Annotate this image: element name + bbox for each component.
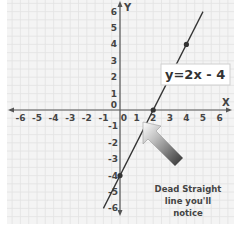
- x-tick-label: 0: [121, 113, 127, 123]
- x-tick-label: -3: [65, 113, 75, 123]
- y-tick-label: 3: [111, 56, 117, 66]
- y-tick-label: -1: [108, 121, 118, 131]
- y-tick-label: 5: [111, 23, 117, 33]
- y-axis-label: Y: [123, 2, 132, 13]
- note-line-1: Dead Straight: [155, 184, 222, 194]
- x-tick-label: 1: [133, 113, 139, 123]
- x-tick-label: -4: [49, 113, 59, 123]
- data-point: [184, 42, 189, 47]
- data-point: [151, 107, 156, 112]
- y-tick-label: -6: [108, 203, 118, 213]
- y-tick-label: 0: [111, 100, 117, 110]
- chart: -6-5-4-3-2-101234566543210-1-2-3-4-5-6 Y…: [0, 0, 238, 235]
- x-tick-label: -6: [15, 113, 25, 123]
- x-tick-label: 3: [167, 113, 173, 123]
- y-tick-label: -2: [108, 138, 118, 148]
- y-tick-label: -3: [108, 154, 118, 164]
- x-tick-label: -1: [98, 113, 108, 123]
- x-axis-label: X: [222, 97, 230, 108]
- x-tick-label: 6: [216, 113, 222, 123]
- x-tick-label: 4: [183, 113, 189, 123]
- x-tick-label: -5: [32, 113, 42, 123]
- equation-label: y=2x - 4: [165, 67, 225, 82]
- x-tick-label: -2: [82, 113, 92, 123]
- note-line-3: notice: [173, 208, 203, 218]
- y-tick-label: 6: [111, 7, 117, 17]
- data-point: [117, 173, 122, 178]
- note-line-2: line you'll: [165, 196, 212, 206]
- y-tick-label: 1: [111, 89, 117, 99]
- y-tick-label: 2: [111, 72, 117, 82]
- x-tick-label: 5: [200, 113, 206, 123]
- y-tick-label: -4: [108, 171, 118, 181]
- y-tick-label: 4: [111, 39, 117, 49]
